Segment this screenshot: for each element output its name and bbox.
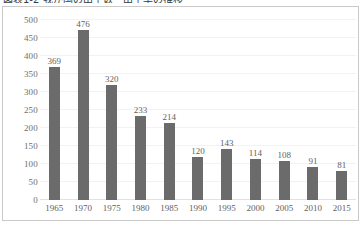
x-axis-tick-label: 1970 — [74, 203, 92, 213]
chart-title: 図表1-2 我が国の出生数・出生率の推移 — [3, 0, 183, 3]
bar — [106, 85, 117, 200]
y-axis-tick-label: 500 — [24, 15, 38, 25]
bar-value-label: 476 — [76, 20, 90, 29]
bar-series: 3694763202332141201431141089181 — [40, 20, 356, 200]
bar — [221, 149, 232, 200]
y-axis-tick-label: 450 — [24, 33, 38, 43]
x-axis-tick-label: 2005 — [275, 203, 293, 213]
bar — [78, 30, 89, 200]
x-axis-tick-label: 1995 — [218, 203, 236, 213]
bar-value-label: 91 — [308, 157, 317, 166]
bar-value-label: 143 — [220, 139, 234, 148]
y-axis-tick-label: 250 — [24, 105, 38, 115]
y-axis-tick-label: 200 — [24, 123, 38, 133]
x-axis-tick-label: 1980 — [132, 203, 150, 213]
y-axis-tick-label: 350 — [24, 69, 38, 79]
bar-value-label: 320 — [105, 75, 119, 84]
y-axis-tick-label: 0 — [33, 195, 38, 205]
bar-group: 91 — [299, 20, 328, 200]
bar — [250, 159, 261, 200]
x-axis-tick-label: 2010 — [304, 203, 322, 213]
bar-group: 369 — [40, 20, 69, 200]
y-axis-tick-label: 150 — [24, 141, 38, 151]
bar-group: 114 — [241, 20, 270, 200]
bar-group: 143 — [212, 20, 241, 200]
bar-group: 476 — [69, 20, 98, 200]
y-axis: 500450400350300250200150100500 — [5, 20, 38, 200]
bar-group: 108 — [270, 20, 299, 200]
y-axis-tick-label: 300 — [24, 87, 38, 97]
bar-group: 214 — [155, 20, 184, 200]
bar — [336, 171, 347, 200]
bar-value-label: 120 — [191, 147, 205, 156]
x-axis-tick-label: 1985 — [160, 203, 178, 213]
plot-area: 3694763202332141201431141089181 — [40, 20, 356, 200]
bar-value-label: 108 — [277, 151, 291, 160]
chart-frame: 500450400350300250200150100500 369476320… — [2, 6, 359, 221]
y-axis-tick-label: 100 — [24, 159, 38, 169]
bar-value-label: 114 — [249, 149, 262, 158]
bar — [192, 157, 203, 200]
x-axis-tick-label: 1965 — [45, 203, 63, 213]
bar — [164, 123, 175, 200]
x-axis-tick-label: 1990 — [189, 203, 207, 213]
bar-group: 81 — [327, 20, 356, 200]
bar-group: 320 — [97, 20, 126, 200]
bar — [49, 67, 60, 200]
x-axis-tick-label: 2000 — [246, 203, 264, 213]
y-axis-tick-label: 400 — [24, 51, 38, 61]
bar-value-label: 369 — [48, 57, 62, 66]
bar-value-label: 214 — [163, 113, 177, 122]
x-axis: 1965197019751980198519901995200020052010… — [40, 203, 356, 219]
x-axis-tick-label: 2015 — [333, 203, 351, 213]
bar-value-label: 81 — [337, 161, 346, 170]
bar-group: 120 — [184, 20, 213, 200]
bar-group: 233 — [126, 20, 155, 200]
x-axis-tick-label: 1975 — [103, 203, 121, 213]
y-axis-tick-label: 50 — [29, 177, 38, 187]
bar — [135, 116, 146, 200]
bar — [307, 167, 318, 200]
bar — [279, 161, 290, 200]
bar-value-label: 233 — [134, 106, 148, 115]
